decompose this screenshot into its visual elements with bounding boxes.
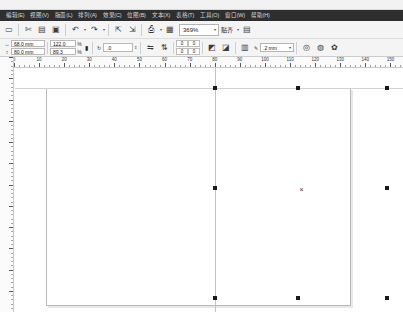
ruler-major-tick — [9, 142, 13, 143]
nudge-x2-field[interactable]: 0 — [188, 40, 200, 47]
export-icon[interactable]: ⇲ — [125, 22, 139, 37]
horizontal-ruler[interactable]: 0102030405060708090100110120130140150 — [14, 57, 403, 68]
percent-symbol-y: % — [76, 49, 83, 55]
ruler-major-tick — [139, 63, 140, 67]
page-boundary — [46, 88, 351, 306]
handle-top-center[interactable] — [296, 86, 300, 90]
drawing-canvas[interactable]: × — [15, 68, 403, 312]
ruler-minor-tick — [310, 65, 311, 67]
ruler-minor-tick — [205, 65, 206, 67]
trim-icon[interactable]: ◍ — [313, 40, 327, 55]
cut-icon[interactable]: ✄ — [21, 22, 35, 37]
handle-bottom-right[interactable] — [385, 296, 389, 300]
toolbar-separator — [202, 42, 203, 54]
menu-effects[interactable]: 效果(C) — [100, 10, 125, 21]
rotation-angle-field[interactable]: .0 — [103, 43, 133, 52]
menu-bar: 编辑(E)视图(V)版面(L)排列(A)效果(C)位图(B)文本(X)表格(T)… — [0, 10, 403, 21]
ruler-minor-tick — [11, 83, 13, 84]
menu-table[interactable]: 表格(T) — [173, 10, 197, 21]
ruler-minor-tick — [150, 65, 151, 67]
ruler-minor-tick — [380, 65, 381, 67]
ruler-major-tick — [9, 100, 13, 101]
properties-icon[interactable]: ✿ — [327, 40, 341, 55]
convert-to-curves-icon[interactable]: ◎ — [299, 40, 313, 55]
selection-center-marker[interactable]: × — [298, 186, 305, 193]
snap-to-label[interactable]: 贴齐 — [219, 25, 235, 34]
ruler-minor-tick — [160, 65, 161, 67]
title-strip — [0, 0, 403, 10]
to-front-icon[interactable]: ◩ — [205, 40, 219, 55]
zoom-level-combo[interactable]: 369% ▾ — [179, 24, 219, 36]
ruler-minor-tick — [11, 193, 13, 194]
chevron-down-icon[interactable]: ▾ — [214, 27, 216, 32]
handle-bottom-center[interactable] — [296, 296, 300, 300]
application-launcher-icon[interactable]: ▦ — [163, 22, 177, 37]
ruler-minor-tick — [11, 231, 13, 232]
ruler-minor-tick — [69, 65, 70, 67]
ruler-label: 20 — [62, 57, 67, 62]
ruler-label: 90 — [237, 57, 242, 62]
menu-window[interactable]: 窗口(W) — [222, 10, 248, 21]
mirror-horizontal-icon[interactable]: ⇋ — [143, 40, 157, 55]
ruler-label: 70 — [187, 57, 192, 62]
handle-middle-right[interactable] — [385, 186, 389, 190]
lock-ratio-icon[interactable]: ▮ — [85, 44, 88, 51]
scale-y-field[interactable]: 89.3 — [50, 48, 76, 55]
nudge-y-field[interactable]: 0 — [176, 48, 188, 55]
to-back-icon[interactable]: ◪ — [219, 40, 233, 55]
handle-top-left[interactable] — [213, 86, 217, 90]
vertical-guideline[interactable] — [215, 68, 216, 312]
chevron-down-icon[interactable]: ▾ — [289, 45, 291, 50]
wrap-text-icon[interactable]: ▥ — [238, 40, 252, 55]
ruler-minor-tick — [280, 65, 281, 67]
redo-icon[interactable]: ↷ — [87, 22, 101, 37]
vertical-ruler[interactable] — [0, 57, 14, 312]
ruler-major-tick — [365, 63, 366, 67]
paste-icon[interactable]: ▣ — [49, 22, 63, 37]
menu-arrange[interactable]: 排列(A) — [75, 10, 99, 21]
import-icon[interactable]: ⇱ — [111, 22, 125, 37]
handle-top-right[interactable] — [385, 86, 389, 90]
ruler-minor-tick — [185, 65, 186, 67]
menu-help[interactable]: 帮助(H) — [248, 10, 273, 21]
new-document-icon[interactable]: ▭ — [2, 22, 16, 37]
ruler-major-tick — [265, 63, 266, 67]
nudge-y2-field[interactable]: 0 — [188, 48, 200, 55]
ruler-minor-tick — [24, 65, 25, 67]
outline-width-combo[interactable]: .2 mm ▾ — [260, 43, 294, 52]
mirror-vertical-icon[interactable]: ⇅ — [157, 40, 171, 55]
ruler-minor-tick — [11, 180, 13, 181]
ruler-minor-tick — [11, 61, 13, 62]
ruler-minor-tick — [355, 65, 356, 67]
ruler-minor-tick — [94, 65, 95, 67]
options-icon[interactable]: ▤ — [240, 22, 254, 37]
handle-middle-left[interactable] — [213, 186, 217, 190]
ruler-major-tick — [114, 63, 115, 67]
nudge-x-field[interactable]: 0 — [176, 40, 188, 47]
redo-dropdown-icon[interactable]: ▾ — [101, 27, 106, 32]
menu-bitmap[interactable]: 位图(B) — [124, 10, 148, 21]
horizontal-guideline[interactable] — [15, 88, 403, 89]
handle-bottom-left[interactable] — [213, 296, 217, 300]
menu-text[interactable]: 文本(X) — [149, 10, 173, 21]
ruler-minor-tick — [11, 138, 13, 139]
ruler-minor-tick — [11, 219, 13, 220]
nudge-group-2: 0 0 — [188, 40, 200, 55]
ruler-minor-tick — [11, 253, 13, 254]
object-width-field[interactable]: 68.0 mm — [11, 40, 45, 47]
menu-edit[interactable]: 编辑(E) — [3, 10, 27, 21]
menu-layout[interactable]: 版面(L) — [52, 10, 76, 21]
object-height-field[interactable]: 80.0 mm — [11, 48, 45, 55]
copy-icon[interactable]: ▤ — [35, 22, 49, 37]
publish-pdf-icon[interactable]: ⎙ — [144, 22, 158, 37]
ruler-major-tick — [9, 163, 13, 164]
ruler-minor-tick — [180, 65, 181, 67]
undo-icon[interactable]: ↶ — [68, 22, 82, 37]
ruler-minor-tick — [11, 278, 13, 279]
scale-x-field[interactable]: 122.0 — [50, 40, 76, 47]
zoom-level-value: 369% — [183, 27, 198, 33]
menu-tools[interactable]: 工具(O) — [197, 10, 222, 21]
rotation-stepper-icon[interactable]: ⇕ — [133, 45, 138, 50]
ruler-major-tick — [89, 63, 90, 67]
menu-view[interactable]: 视图(V) — [27, 10, 51, 21]
